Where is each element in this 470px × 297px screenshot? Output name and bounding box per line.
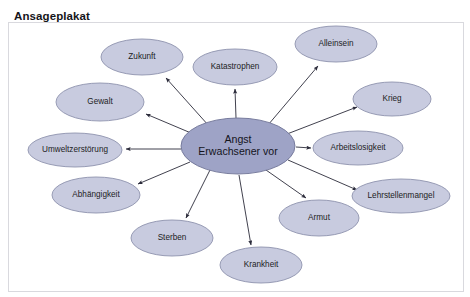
diagram-svg	[0, 22, 470, 297]
arrow-center-to-sterben	[186, 170, 210, 218]
node-ellipse-alleinsein[interactable]	[295, 26, 377, 62]
node-ellipse-sterben[interactable]	[131, 220, 213, 256]
node-ellipse-gewalt[interactable]	[56, 83, 144, 121]
arrow-center-to-krieg	[287, 107, 357, 134]
arrow-center-to-gewalt	[146, 114, 191, 133]
node-ellipse-krankheit[interactable]	[220, 247, 302, 283]
diagram-canvas: ZukunftKatastrophenAlleinseinKriegArbeit…	[0, 22, 470, 297]
arrow-center-to-krankheit	[239, 175, 251, 245]
node-ellipse-arbeitslosigkeit[interactable]	[313, 131, 403, 165]
node-ellipse-katastrophen[interactable]	[193, 49, 277, 85]
node-ellipse-lehrstellenmangel[interactable]	[352, 179, 450, 213]
page-title: Ansageplakat	[14, 10, 90, 22]
arrow-center-to-alleinsein	[268, 66, 318, 125]
arrow-center-to-abhaengigkeit	[138, 162, 190, 184]
arrow-center-to-zukunft	[166, 78, 209, 126]
arrow-center-to-katastrophen	[235, 89, 236, 118]
node-ellipse-zukunft[interactable]	[101, 39, 183, 75]
arrow-center-to-armut	[266, 170, 306, 198]
node-ellipse-krieg[interactable]	[353, 82, 431, 116]
node-ellipse-center[interactable]	[181, 118, 295, 174]
node-layer	[28, 26, 450, 283]
node-ellipse-armut[interactable]	[279, 200, 359, 236]
node-ellipse-umweltzerstoerung[interactable]	[28, 133, 122, 167]
node-ellipse-abhaengigkeit[interactable]	[52, 177, 140, 213]
arrow-center-to-arbeitslosigkeit	[296, 147, 311, 148]
